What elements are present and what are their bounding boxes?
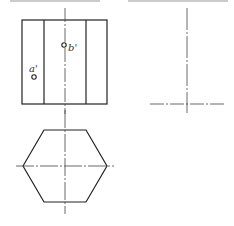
point-a-marker [32,75,36,79]
point-b-marker [62,43,66,47]
projection-drawing [0,0,234,226]
front-view-outline [22,20,107,104]
front-view [22,20,107,104]
point-b-label: b' [68,43,77,53]
point-a-label: a' [29,64,38,74]
